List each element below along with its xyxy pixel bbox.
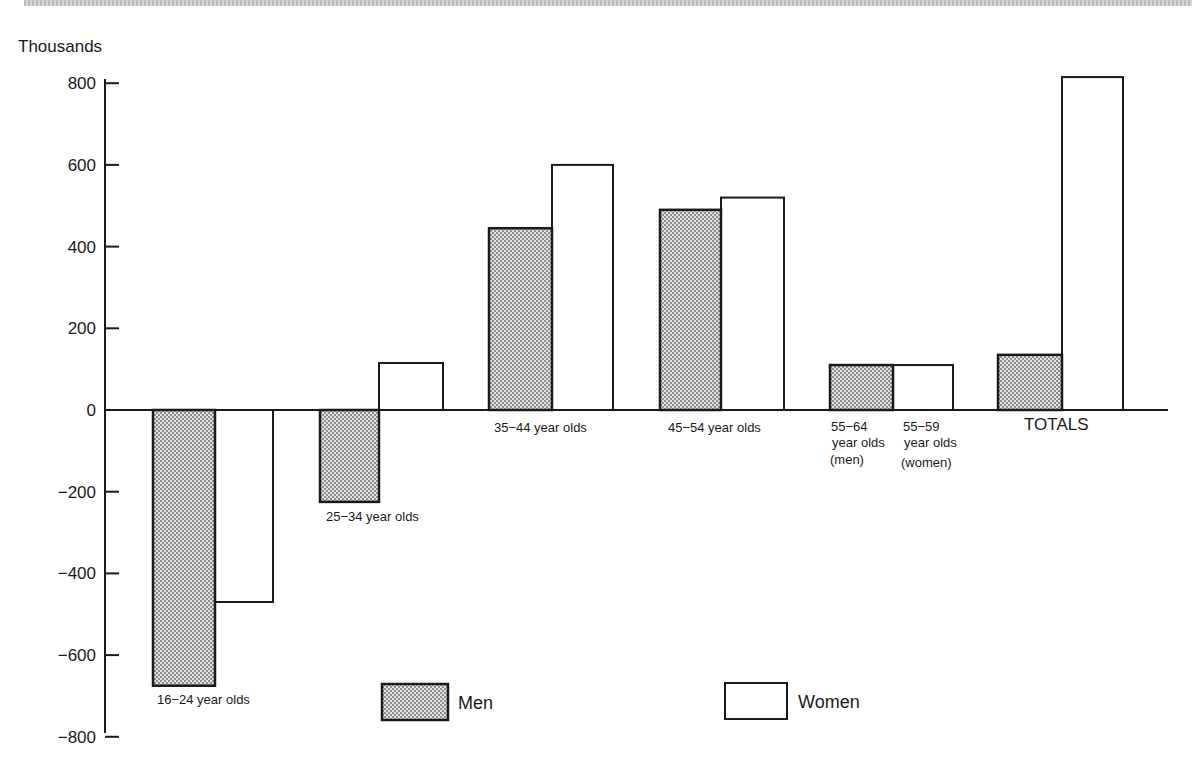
- category-label-55-59-women-line3: (women): [901, 455, 952, 470]
- y-tick-label: −800: [58, 728, 96, 747]
- y-tick-label: 400: [68, 238, 96, 257]
- legend-label-women: Women: [798, 692, 860, 712]
- legend-swatch-men: [382, 684, 448, 720]
- category-label-35-44: 35−44 year olds: [494, 420, 587, 435]
- y-tick-label: −400: [58, 564, 96, 583]
- bar-chart: Thousands 8006004002000−200−400−600−800 …: [0, 0, 1192, 770]
- bar-men: [489, 228, 552, 410]
- legend-swatch-women: [725, 683, 787, 719]
- y-axis-unit-label: Thousands: [18, 37, 102, 56]
- bar-women: [552, 165, 613, 410]
- legend: Men Women: [382, 683, 860, 720]
- category-label-16-24: 16−24 year olds: [157, 692, 250, 707]
- bar-women: [379, 363, 443, 410]
- category-label-55-59-women-line2: year olds: [904, 435, 957, 450]
- y-tick-label: −600: [58, 646, 96, 665]
- y-tick-label: 600: [68, 156, 96, 175]
- category-label-55-64-men-line1: 55−64: [831, 419, 868, 434]
- y-tick-label: −200: [58, 483, 96, 502]
- bar-women: [215, 410, 273, 602]
- category-label-55-64-men-line3: (men): [830, 452, 864, 467]
- y-tick-label: 0: [87, 401, 96, 420]
- category-label-55-59-women-line1: 55−59: [903, 419, 940, 434]
- category-label-45-54: 45−54 year olds: [668, 420, 761, 435]
- bar-men: [830, 365, 893, 410]
- bar-women: [1062, 77, 1123, 410]
- y-tick-label: 800: [68, 74, 96, 93]
- bar-men: [153, 410, 215, 686]
- bar-men: [320, 410, 379, 502]
- category-label-totals: TOTALS: [1024, 415, 1089, 434]
- legend-label-men: Men: [458, 693, 493, 713]
- category-label-55-64-men-line2: year olds: [832, 435, 885, 450]
- bar-men: [660, 210, 721, 410]
- bar-women: [893, 365, 953, 410]
- bar-women: [721, 198, 784, 410]
- y-tick-label: 200: [68, 319, 96, 338]
- bars-group: [153, 77, 1123, 686]
- bar-men: [998, 355, 1062, 410]
- category-label-25-34: 25−34 year olds: [326, 509, 419, 524]
